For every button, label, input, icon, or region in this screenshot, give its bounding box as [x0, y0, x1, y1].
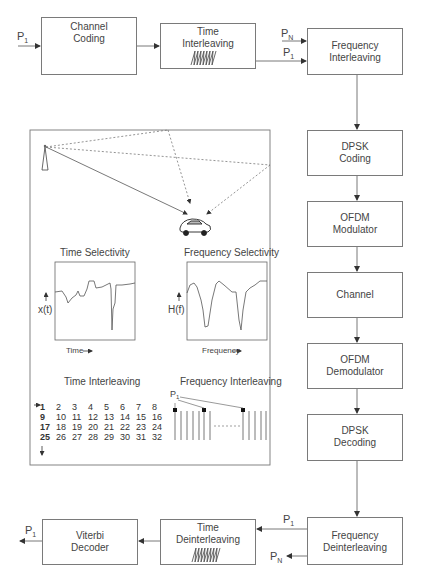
signal-subscript: 1: [32, 531, 36, 538]
grid-cell: 19: [72, 422, 88, 432]
grid-cell: 29: [104, 432, 120, 442]
grid-cell: 3: [72, 402, 88, 412]
grid-cell: 12: [88, 412, 104, 422]
block-label: Frequency: [308, 530, 402, 542]
grid-cell: 23: [136, 422, 152, 432]
grid-row: 9 10 11 12 13 14 15 16: [40, 412, 168, 422]
frequency-interleaving-p1: P1: [170, 389, 179, 399]
block-label: Coding: [308, 153, 402, 165]
signal-subscript: N: [288, 34, 293, 41]
block-label: Coding: [42, 33, 136, 45]
p1-output-label: P1: [283, 513, 294, 525]
block-label: OFDM: [308, 354, 402, 366]
grid-cell: 24: [152, 422, 168, 432]
car-icon: [180, 219, 211, 236]
grid-cell: 27: [72, 432, 88, 442]
block-label: Time: [161, 522, 255, 534]
block-label: Decoder: [43, 542, 137, 554]
block-label: Channel: [42, 21, 136, 33]
grid-cell: 4: [88, 402, 104, 412]
block-time-deinterleaving: Time Deinterleaving: [160, 519, 256, 565]
signal-subscript: 1: [290, 53, 294, 60]
grid-cell: 8: [152, 402, 168, 412]
grid-cell: 1: [40, 402, 56, 412]
grid-cell: 7: [136, 402, 152, 412]
grid-cell: 31: [136, 432, 152, 442]
grid-cell: 22: [120, 422, 136, 432]
block-label: Interleaving: [161, 38, 255, 50]
block-label: Interleaving: [308, 52, 402, 64]
time-selectivity-xlabel: Time: [66, 346, 83, 355]
grid-cell: 17: [40, 422, 56, 432]
signal-subscript: 1: [290, 520, 294, 527]
grid-cell: 26: [56, 432, 72, 442]
pn-output-label: PN: [270, 550, 282, 562]
grid-cell: 30: [120, 432, 136, 442]
grid-row: 17 18 19 20 21 22 23 24: [40, 422, 168, 432]
grid-cell: 32: [152, 432, 168, 442]
grid-cell: 28: [88, 432, 104, 442]
signal-subscript: N: [277, 557, 282, 564]
block-label: DPSK: [308, 425, 402, 437]
frequency-selectivity-xlabel: Frequency: [202, 346, 240, 355]
grid-cell: 18: [56, 422, 72, 432]
grid-cell: 9: [40, 412, 56, 422]
block-label: Channel: [308, 289, 402, 301]
input-signal-label: P1: [17, 30, 28, 42]
grid-cell: 5: [104, 402, 120, 412]
block-ofdm-demodulator: OFDM Demodulator: [307, 343, 403, 389]
subcarrier-bars: [175, 411, 266, 440]
block-label: Viterbi: [43, 530, 137, 542]
block-label: Deinterleaving: [161, 534, 255, 546]
grid-cell: 20: [88, 422, 104, 432]
antenna-icon: [42, 145, 48, 170]
block-label: Time: [161, 26, 255, 38]
block-dpsk-coding: DPSK Coding: [307, 130, 403, 176]
block-label: OFDM: [308, 212, 402, 224]
signal-subscript: 1: [176, 394, 179, 400]
block-label: Decoding: [308, 437, 402, 449]
frequency-selectivity-title: Frequency Selectivity: [184, 247, 279, 258]
block-channel: Channel: [307, 272, 403, 318]
time-selectivity-ylabel: x(t): [38, 304, 52, 315]
grid-cell: 15: [136, 412, 152, 422]
block-ofdm-modulator: OFDM Modulator: [307, 201, 403, 247]
grid-cell: 2: [56, 402, 72, 412]
grid-cell: 25: [40, 432, 56, 442]
grid-row: 25 26 27 28 29 30 31 32: [40, 432, 168, 442]
grid-cell: 21: [104, 422, 120, 432]
block-dpsk-decoding: DPSK Decoding: [307, 414, 403, 461]
time-selectivity-title: Time Selectivity: [60, 247, 130, 258]
grid-row: 1 2 3 4 5 6 7 8: [40, 402, 168, 412]
time-interleaving-title: Time Interleaving: [64, 376, 140, 387]
final-output-label: P1: [25, 524, 36, 536]
block-label: Demodulator: [308, 366, 402, 378]
signal-subscript: 1: [24, 37, 28, 44]
grid-cell: 13: [104, 412, 120, 422]
block-label: Deinterleaving: [308, 542, 402, 554]
grid-cell: 14: [120, 412, 136, 422]
grid-cell: 10: [56, 412, 72, 422]
grid-cell: 16: [152, 412, 168, 422]
grid-cell: 11: [72, 412, 88, 422]
block-frequency-interleaving: Frequency Interleaving: [307, 28, 403, 75]
block-label: DPSK: [308, 141, 402, 153]
block-channel-coding: Channel Coding: [41, 17, 137, 75]
block-frequency-deinterleaving: Frequency Deinterleaving: [307, 517, 403, 565]
p1-input-label: P1: [283, 46, 294, 58]
pn-input-label: PN: [281, 27, 293, 39]
frequency-selectivity-ylabel: H(f): [168, 304, 185, 315]
block-label: Frequency: [308, 40, 402, 52]
time-interleaving-grid: 1 2 3 4 5 6 7 8 9 10 11 12 13 14 15 16 1…: [40, 402, 168, 442]
block-time-interleaving: Time Interleaving: [160, 23, 256, 69]
frequency-interleaving-title: Frequency Interleaving: [180, 376, 282, 387]
grid-cell: 6: [120, 402, 136, 412]
block-viterbi-decoder: Viterbi Decoder: [42, 519, 138, 565]
block-label: Modulator: [308, 224, 402, 236]
